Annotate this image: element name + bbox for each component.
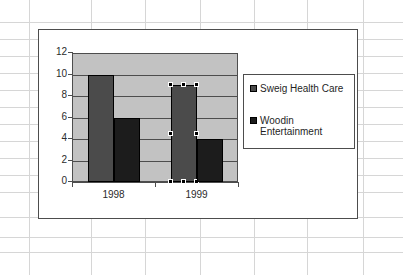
y-axis-labels: 024681012: [39, 30, 67, 190]
selection-handle-1-2[interactable]: [194, 131, 199, 136]
selection-handle-0-1[interactable]: [181, 82, 186, 87]
y-axis-tick-label-4: 4: [41, 133, 67, 143]
chart-object[interactable]: 024681012 19981999 Sweig Health CareWood…: [38, 29, 358, 219]
legend-entry-0[interactable]: Sweig Health Care: [250, 83, 343, 94]
legend-swatch-sweig-icon: [250, 85, 257, 92]
selection-handle-2-0[interactable]: [168, 179, 173, 184]
selection-handle-1-0[interactable]: [168, 131, 173, 136]
worksheet-gridline-v-0: [29, 0, 30, 275]
legend-label-1: Woodin Entertainment: [260, 115, 322, 137]
worksheet-gridline-h-12: [0, 237, 403, 238]
bar-woodin-entertainment-1998[interactable]: [114, 118, 140, 183]
y-axis-tick-6: [68, 117, 73, 118]
selection-handle-0-0[interactable]: [168, 82, 173, 87]
y-axis-tick-0: [68, 181, 73, 182]
y-axis-tick-label-12: 12: [41, 47, 67, 57]
x-axis-label-1998: 1998: [72, 189, 155, 200]
y-axis-tick-2: [68, 160, 73, 161]
y-axis-tick-label-0: 0: [41, 176, 67, 186]
worksheet-gridline-h-0: [0, 22, 403, 23]
x-axis-tick-end: [238, 183, 239, 187]
selection-handle-2-1[interactable]: [181, 179, 186, 184]
y-axis-tick-label-2: 2: [41, 155, 67, 165]
y-axis-line: [72, 53, 73, 183]
legend-label-0: Sweig Health Care: [260, 83, 343, 94]
y-axis-tick-10: [68, 74, 73, 75]
chart-legend[interactable]: Sweig Health CareWoodin Entertainment: [243, 74, 355, 149]
legend-swatch-woodin-icon: [250, 117, 257, 124]
spreadsheet-canvas: 024681012 19981999 Sweig Health CareWood…: [0, 0, 403, 275]
bar-woodin-entertainment-1999[interactable]: [197, 139, 223, 182]
y-axis-tick-label-6: 6: [41, 112, 67, 122]
legend-entry-1[interactable]: Woodin Entertainment: [250, 115, 322, 137]
x-axis-tick-1: [155, 183, 156, 187]
y-axis-tick-8: [68, 95, 73, 96]
x-axis-tick-0: [72, 183, 73, 187]
worksheet-gridline-v-6: [363, 0, 364, 275]
bar-sweig-health-care-1998[interactable]: [88, 75, 114, 183]
worksheet-gridline-h-13: [0, 252, 403, 253]
x-axis-label-1999: 1999: [155, 189, 238, 200]
y-axis-tick-12: [68, 52, 73, 53]
selection-handle-0-2[interactable]: [194, 82, 199, 87]
y-axis-tick-label-8: 8: [41, 90, 67, 100]
y-axis-tick-4: [68, 138, 73, 139]
y-axis-tick-label-10: 10: [41, 69, 67, 79]
